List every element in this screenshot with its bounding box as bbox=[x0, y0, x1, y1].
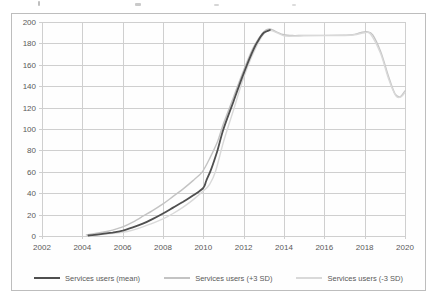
y-axis-tick-label: 20 bbox=[27, 211, 36, 220]
y-axis-tick-label: 80 bbox=[27, 146, 36, 155]
text-fragment bbox=[135, 3, 141, 6]
x-axis-tick-label: 2020 bbox=[396, 243, 414, 252]
x-axis-tick-label: 2004 bbox=[73, 243, 91, 252]
text-fragment bbox=[292, 4, 296, 6]
clipped-top-text-fragments bbox=[0, 0, 435, 8]
x-axis-tick-label: 2002 bbox=[33, 243, 51, 252]
legend-line-sample bbox=[296, 277, 322, 279]
x-axis-tick-label: 2010 bbox=[194, 243, 212, 252]
y-axis-tick-label: 140 bbox=[23, 82, 37, 91]
y-axis-tick-label: 160 bbox=[23, 61, 37, 70]
axis-tick-labels: 2002200420062008201020122014201620182020… bbox=[23, 18, 415, 252]
x-axis-tick-label: 2008 bbox=[154, 243, 172, 252]
text-fragment bbox=[214, 4, 219, 6]
y-axis-tick-label: 0 bbox=[32, 232, 37, 241]
y-axis-tick-label: 120 bbox=[23, 104, 37, 113]
y-axis-tick-label: 40 bbox=[27, 189, 36, 198]
x-axis-tick-label: 2014 bbox=[275, 243, 293, 252]
legend-line-sample bbox=[34, 277, 60, 279]
y-axis-tick-label: 100 bbox=[23, 125, 37, 134]
text-fragment bbox=[38, 1, 40, 6]
y-axis-tick-label: 200 bbox=[23, 18, 37, 27]
legend-item: Services users (-3 SD) bbox=[296, 274, 402, 283]
series-line-services-users-+3-sd- bbox=[86, 29, 405, 235]
x-axis-tick-label: 2006 bbox=[114, 243, 132, 252]
x-axis-tick-label: 2018 bbox=[356, 243, 374, 252]
legend-label: Services users (-3 SD) bbox=[327, 274, 402, 283]
x-axis-tick-label: 2016 bbox=[315, 243, 333, 252]
legend-label: Services users (+3 SD) bbox=[195, 274, 272, 283]
y-axis-tick-label: 180 bbox=[23, 39, 37, 48]
legend-label: Services users (mean) bbox=[65, 274, 140, 283]
x-axis-tick-label: 2012 bbox=[235, 243, 253, 252]
legend-line-sample bbox=[164, 277, 190, 279]
series-line-services-users-mean- bbox=[88, 30, 270, 236]
y-axis-tick-label: 60 bbox=[27, 168, 36, 177]
chart-frame: 2002200420062008201020122014201620182020… bbox=[11, 13, 426, 291]
chart-legend: Services users (mean)Services users (+3 … bbox=[12, 270, 425, 286]
legend-item: Services users (mean) bbox=[34, 274, 140, 283]
line-chart-plot: 2002200420062008201020122014201620182020… bbox=[12, 14, 425, 266]
legend-item: Services users (+3 SD) bbox=[164, 274, 272, 283]
